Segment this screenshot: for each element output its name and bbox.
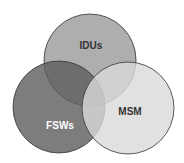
label-msm: MSM [118, 106, 141, 117]
venn-diagram: IDUs FSWs MSM [0, 0, 184, 163]
label-fsws: FSWs [46, 120, 74, 131]
label-idus: IDUs [80, 40, 103, 51]
